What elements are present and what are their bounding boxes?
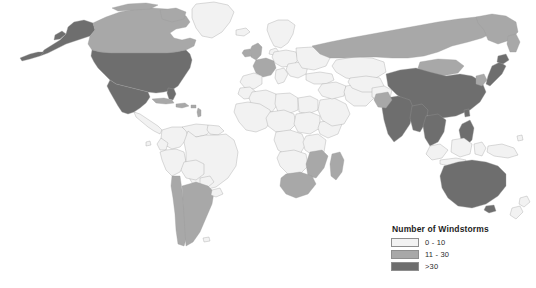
region-indochina [423,114,446,146]
legend-label-high: >30 [425,262,438,271]
region-hispaniola [176,103,189,108]
legend-swatch-low [391,238,419,247]
region-iraq-syria [318,82,346,99]
region-sumatra [426,144,448,160]
region-ireland [242,49,251,57]
region-taiwan [464,109,470,117]
region-florida [167,88,176,100]
region-sulawesi [474,142,486,156]
legend-item-high: >30 [391,261,531,272]
region-nigeria-chad [266,110,296,132]
legend-item-low: 0 - 10 [391,237,531,248]
region-australia [440,160,506,208]
region-new-zealand-south [510,206,523,219]
region-papua-new-guinea [487,144,518,158]
region-alaska [40,20,95,56]
legend-item-mid: 11 - 30 [391,249,531,260]
region-sudan [294,112,320,134]
legend-swatch-mid [391,250,419,259]
region-korea [476,74,487,86]
region-united-kingdom [250,43,262,60]
region-turkey [306,72,334,84]
region-madagascar [330,152,344,180]
region-tasmania [484,205,496,213]
legend-label-low: 0 - 10 [425,238,445,247]
region-united-states [91,50,192,93]
region-uruguay [211,188,223,197]
region-egypt [298,96,318,114]
legend-title: Number of Windstorms [392,224,531,234]
region-guianas [207,125,224,135]
region-falkland-islands [203,237,210,242]
region-south-africa [280,172,316,198]
region-argentina [182,182,214,246]
region-mozambique [306,150,328,178]
region-central-america [134,112,162,134]
world-windstorms-map-figure: Number of Windstorms 0 - 10 11 - 30 >30 [0,0,536,288]
region-spain-portugal [240,73,262,89]
region-russia [312,17,498,58]
region-galapagos [146,141,151,146]
map-legend: Number of Windstorms 0 - 10 11 - 30 >30 [391,224,531,273]
region-puerto-rico [191,105,196,108]
legend-swatch-high [391,262,419,271]
region-pacific-islands [517,135,523,141]
region-japan [486,62,506,86]
region-new-zealand-north [519,196,530,207]
region-italy [275,68,288,84]
region-angola-zambia [277,150,308,174]
region-lesser-antilles [197,108,201,117]
region-greenland [192,2,234,38]
region-aleutian-islands [20,52,44,61]
region-hokkaido [497,54,509,64]
region-norway-sweden-finland [267,20,295,48]
region-iceland [236,28,250,36]
region-kamchatka [507,34,520,52]
region-kazakhstan [332,57,386,80]
legend-label-mid: 11 - 30 [425,250,449,259]
